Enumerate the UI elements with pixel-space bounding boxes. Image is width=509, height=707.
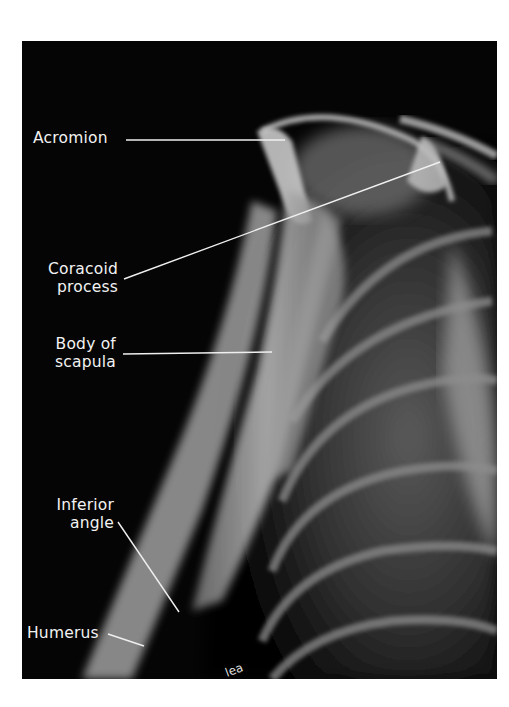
label-line: angle bbox=[22, 514, 114, 532]
label-humerus: Humerus bbox=[27, 624, 99, 642]
label-line: Acromion bbox=[33, 129, 108, 147]
label-line: Coracoid bbox=[22, 260, 118, 278]
label-coracoid-process: Coracoid process bbox=[22, 260, 118, 296]
label-line: Body of bbox=[22, 335, 116, 353]
label-inferior-angle: Inferior angle bbox=[22, 496, 114, 532]
label-line: scapula bbox=[22, 353, 116, 371]
label-line: Inferior bbox=[22, 496, 114, 514]
label-line: process bbox=[22, 278, 118, 296]
label-acromion: Acromion bbox=[33, 129, 108, 147]
label-line: Humerus bbox=[27, 624, 99, 642]
label-body-of-scapula: Body of scapula bbox=[22, 335, 116, 371]
xray-image: lea Acromion Coracoid process Body of sc… bbox=[22, 41, 497, 679]
